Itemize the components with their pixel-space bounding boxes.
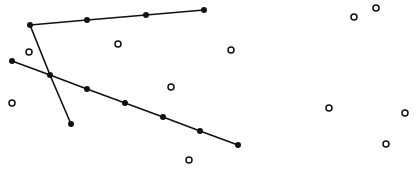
open-point [9,100,15,106]
open-point [383,141,389,147]
polyline-top [30,10,204,25]
open-point [351,14,357,20]
open-point [186,157,192,163]
filled-point [68,121,74,127]
open-point [402,110,408,116]
filled-point-group [9,7,241,148]
open-point [326,105,332,111]
filled-point [9,58,15,64]
filled-point [235,142,241,148]
open-point-group [9,5,408,163]
filled-point [201,7,207,13]
filled-point [27,22,33,28]
filled-point [122,100,128,106]
open-point [228,47,234,53]
filled-point [143,12,149,18]
filled-point [160,114,166,120]
open-point [26,49,32,55]
filled-point [84,17,90,23]
diagram-canvas [0,0,417,175]
filled-point [197,128,203,134]
polyline-group [12,10,238,145]
open-point [115,41,121,47]
open-point [373,5,379,11]
filled-point [47,72,53,78]
open-point [168,84,174,90]
filled-point [84,86,90,92]
